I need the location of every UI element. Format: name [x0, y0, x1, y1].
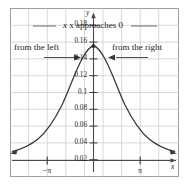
y-tick-label: 0.14: [60, 55, 87, 62]
marked-point: [92, 44, 96, 48]
x-axis-label: x: [171, 163, 174, 171]
x-tick-label: −π: [43, 167, 52, 175]
y-tick-label: 0.04: [60, 139, 87, 146]
figure-container: x x approaches 0 from the left from the …: [0, 0, 189, 185]
y-tick-label: 0.12: [60, 72, 87, 79]
y-tick-label: 0.08: [60, 106, 87, 113]
x-tick-label: π: [138, 167, 142, 175]
y-tick-label: 0.16: [60, 38, 87, 45]
y-tick-label: 0.18: [60, 22, 87, 29]
y-tick-label: 0.06: [60, 122, 87, 129]
annotation-from-the-left: from the left: [14, 43, 59, 52]
y-tick-label: 0.02: [60, 156, 87, 163]
annotation-from-the-right: from the right: [112, 43, 162, 52]
y-tick-label: 0.1: [60, 89, 87, 96]
y-axis-label: y: [86, 9, 89, 17]
